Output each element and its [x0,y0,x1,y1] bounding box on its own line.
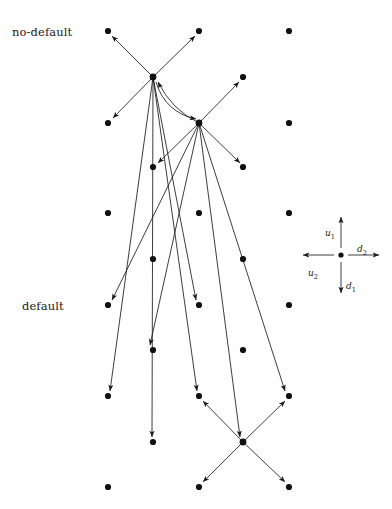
lattice-node[interactable] [286,120,292,126]
legend-origin-dot [338,252,343,257]
lattice-node[interactable] [286,210,292,216]
lattice-node[interactable] [150,256,156,262]
lattice-node[interactable] [105,302,111,308]
lattice-node[interactable] [105,393,111,399]
transition-lattice-diagram: no-defaultdefault u1d1u2d2 [0,0,392,509]
lattice-node[interactable] [105,120,111,126]
transition-arrow [243,442,285,482]
lattice-node[interactable] [105,484,111,490]
transition-arrow [153,36,195,77]
legend-label-subscript: 1 [352,286,356,294]
legend-label-u1: u1 [325,228,335,241]
lattice-node[interactable] [240,164,246,170]
legend-label-d2: d2 [357,244,367,257]
lattice-node[interactable] [240,256,246,262]
lattice-node[interactable] [105,210,111,216]
legend-axes-indicator [303,217,379,293]
diagram-canvas [0,0,392,509]
edges-layer [110,36,285,482]
lattice-node[interactable] [240,347,246,353]
hub-node[interactable] [196,120,203,127]
lattice-node[interactable] [286,28,292,34]
lattice-node[interactable] [196,210,202,216]
transition-arrow [153,77,196,300]
transition-arrow [199,123,240,437]
lattice-node[interactable] [286,302,292,308]
lattice-node[interactable] [196,28,202,34]
lattice-node[interactable] [196,393,202,399]
lattice-node[interactable] [150,164,156,170]
transition-arrow [112,123,199,300]
legend-label-subscript: 2 [314,273,318,281]
transition-arrow [203,442,243,482]
row-label-no-default: no-default [12,25,72,39]
legend-label-u2: u2 [308,268,318,281]
transition-arrow [243,401,285,442]
lattice-node[interactable] [240,74,246,80]
lattice-node[interactable] [286,393,292,399]
legend-label-d1: d1 [346,281,356,294]
legend-label-subscript: 2 [363,249,367,257]
transition-arrow [156,82,196,119]
lattice-node[interactable] [196,302,202,308]
transition-arrow [110,77,153,391]
transition-arrow [158,82,199,123]
transition-arrow [158,123,199,163]
transition-arrow [203,401,243,442]
lattice-node[interactable] [150,347,156,353]
transition-arrow [153,77,197,391]
lattice-node[interactable] [286,484,292,490]
lattice-node[interactable] [150,439,156,445]
hub-node[interactable] [240,439,247,446]
hub-node[interactable] [150,74,157,81]
transition-arrow [112,36,153,77]
row-label-default: default [22,299,64,313]
transition-arrow [199,82,239,123]
legend-label-subscript: 1 [331,233,335,241]
transition-arrow [113,77,153,118]
lattice-node[interactable] [196,484,202,490]
transition-arrow [150,123,199,345]
lattice-node[interactable] [105,28,111,34]
